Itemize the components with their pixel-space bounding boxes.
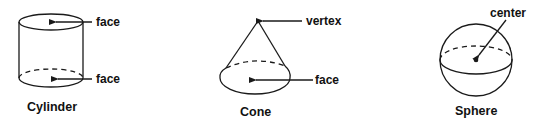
cylinder-bottom-back-edge-dashed (19, 69, 83, 78)
cylinder-title: Cylinder (27, 100, 77, 114)
sphere-title: Sphere (455, 104, 497, 118)
cone-vertex-label: vertex (306, 14, 342, 28)
cylinder-bottom-face-label: face (96, 72, 120, 86)
cone-title: Cone (240, 105, 271, 119)
cone-base-side-edges (220, 66, 290, 78)
cylinder-top-face-label: face (96, 15, 120, 29)
cone-base-back-edge-dashed (226, 61, 285, 68)
sphere-center-dot (474, 58, 479, 63)
cylinder-figure (19, 14, 92, 87)
cone-figure (220, 21, 313, 94)
cone-right-side (258, 21, 285, 66)
solid-figures-diagram: face face Cylinder vertex face Cone cent… (0, 0, 540, 127)
cone-face-label: face (315, 73, 339, 87)
sphere-center-label: center (490, 6, 526, 20)
